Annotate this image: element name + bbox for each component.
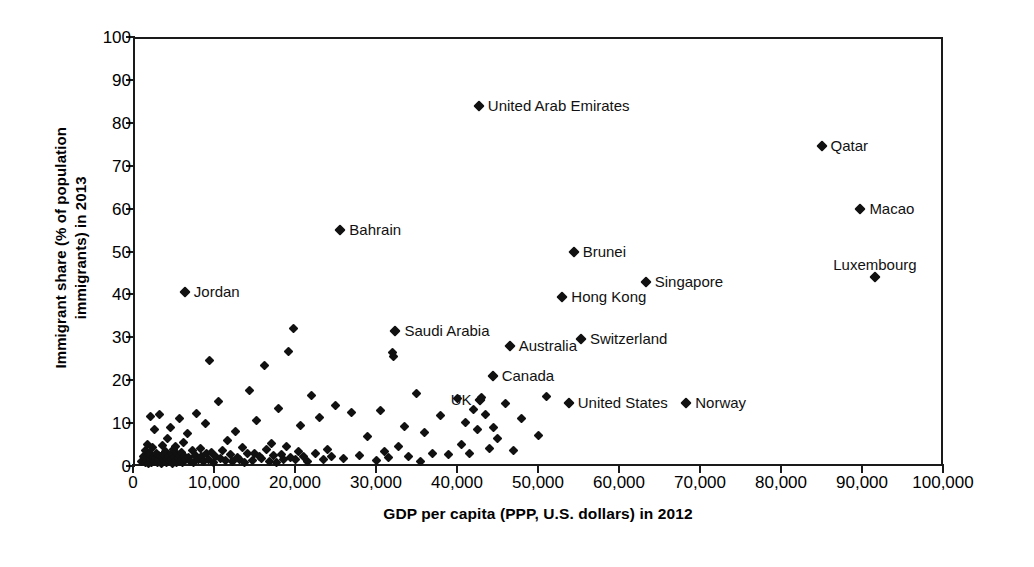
data-point xyxy=(375,405,385,415)
data-point xyxy=(174,414,184,424)
data-point xyxy=(296,420,306,430)
data-point xyxy=(533,431,543,441)
data-point xyxy=(403,451,413,461)
y-tick-label: 40 xyxy=(71,286,131,303)
y-tick-label: 10 xyxy=(71,415,131,432)
data-point-singapore xyxy=(640,276,651,287)
data-point xyxy=(205,356,215,366)
point-label-australia: Australia xyxy=(519,338,577,353)
point-label-luxembourg: Luxembourg xyxy=(833,257,916,272)
point-label-united-states: United States xyxy=(578,395,668,410)
data-point xyxy=(192,408,202,418)
point-label-bahrain: Bahrain xyxy=(349,222,401,237)
data-point-luxembourg xyxy=(869,272,880,283)
x-tick xyxy=(699,464,701,473)
data-point-saudi-arabia xyxy=(390,325,401,336)
y-tick-label: 80 xyxy=(71,115,131,132)
x-tick xyxy=(294,464,296,473)
data-point xyxy=(509,446,519,456)
data-point-united-arab-emirates xyxy=(473,100,484,111)
data-point xyxy=(347,407,357,417)
data-point xyxy=(399,422,409,432)
point-label-switzerland: Switzerland xyxy=(590,331,668,346)
data-point xyxy=(230,427,240,437)
data-point xyxy=(456,440,466,450)
y-tick-label: 100 xyxy=(71,29,131,46)
data-point xyxy=(245,386,255,396)
data-point xyxy=(288,324,298,334)
data-point xyxy=(150,425,160,435)
x-tick xyxy=(618,464,620,473)
data-point xyxy=(284,346,294,356)
point-label-hong-kong: Hong Kong xyxy=(571,289,646,304)
y-tick-label: 30 xyxy=(71,329,131,346)
x-tick xyxy=(456,464,458,473)
y-tick-label: 60 xyxy=(71,201,131,218)
data-point xyxy=(460,417,470,427)
point-label-canada: Canada xyxy=(502,368,555,383)
data-point-norway xyxy=(681,397,692,408)
data-point-macao xyxy=(855,203,866,214)
data-point xyxy=(363,432,373,442)
data-point xyxy=(259,360,269,370)
data-point xyxy=(274,403,284,413)
data-point-canada xyxy=(487,370,498,381)
data-point xyxy=(213,397,223,407)
x-tick xyxy=(942,464,944,473)
data-point xyxy=(464,449,474,459)
data-point xyxy=(314,413,324,423)
data-point xyxy=(339,453,349,463)
x-tick xyxy=(132,464,134,473)
point-label-brunei: Brunei xyxy=(583,244,626,259)
point-label-saudi-arabia: Saudi Arabia xyxy=(404,323,489,338)
data-point xyxy=(223,435,233,445)
data-point xyxy=(484,444,494,454)
data-point xyxy=(165,422,175,432)
data-point-jordan xyxy=(179,287,190,298)
point-label-qatar: Qatar xyxy=(831,138,869,153)
y-tick-label: 70 xyxy=(71,158,131,175)
data-point xyxy=(436,410,446,420)
x-tick xyxy=(537,464,539,473)
data-point xyxy=(155,410,165,420)
point-label-uk: UK xyxy=(451,392,472,407)
x-tick xyxy=(861,464,863,473)
scatter-chart-figure: Immigrant share (% of population immigra… xyxy=(0,0,1034,567)
x-tick-label: 100,000 xyxy=(883,474,1003,491)
data-point xyxy=(355,450,365,460)
plot-border-top xyxy=(133,37,943,39)
data-point xyxy=(394,442,404,452)
data-point xyxy=(517,414,527,424)
data-point xyxy=(252,416,262,426)
data-point xyxy=(389,352,399,362)
data-point-brunei xyxy=(568,246,579,257)
data-point xyxy=(444,450,454,460)
data-point xyxy=(541,392,551,402)
y-tick-label: 20 xyxy=(71,372,131,389)
x-axis-title: GDP per capita (PPP, U.S. dollars) in 20… xyxy=(133,505,943,523)
data-point xyxy=(480,410,490,420)
y-tick-label: 90 xyxy=(71,72,131,89)
data-point xyxy=(501,399,511,409)
point-label-united-arab-emirates: United Arab Emirates xyxy=(488,98,630,113)
point-label-norway: Norway xyxy=(695,395,746,410)
y-axis-title-line1: Immigrant share (% of population xyxy=(52,127,69,369)
data-point-qatar xyxy=(816,141,827,152)
data-point xyxy=(306,390,316,400)
point-label-singapore: Singapore xyxy=(655,274,723,289)
data-point xyxy=(472,425,482,435)
data-point xyxy=(493,433,503,443)
plot-border-right xyxy=(941,37,943,466)
x-tick xyxy=(780,464,782,473)
data-point-hong-kong xyxy=(557,291,568,302)
point-label-jordan: Jordan xyxy=(194,284,240,299)
y-tick-label: 0 xyxy=(71,458,131,475)
data-point xyxy=(488,422,498,432)
data-point xyxy=(200,419,210,429)
y-tick-label: 50 xyxy=(71,244,131,261)
data-point xyxy=(428,448,438,458)
point-label-macao: Macao xyxy=(869,201,914,216)
data-point xyxy=(420,428,430,438)
data-point xyxy=(412,388,422,398)
data-point-australia xyxy=(504,340,515,351)
